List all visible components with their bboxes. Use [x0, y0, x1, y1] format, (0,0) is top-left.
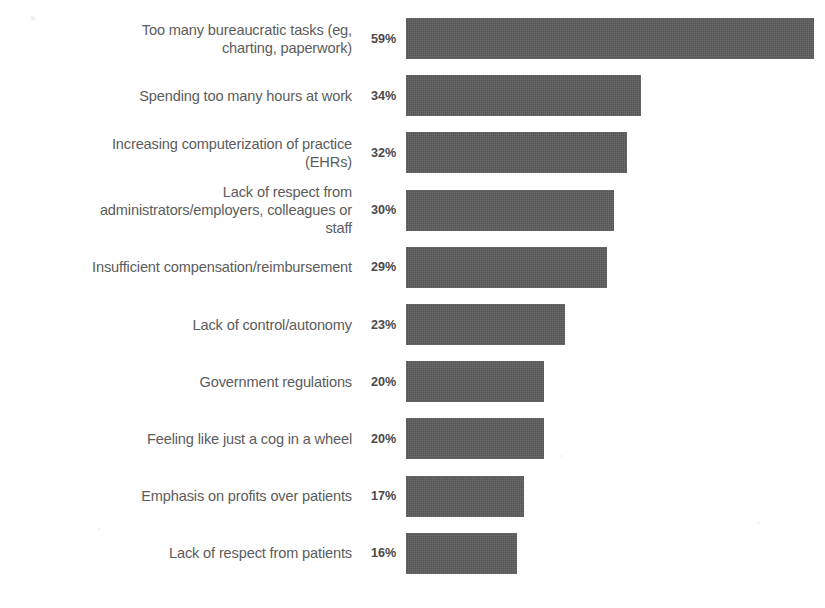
bar-value-label: 59% [352, 32, 406, 46]
bar-row: Insufficient compensation/reimbursement2… [0, 247, 825, 288]
bar-category-label: Emphasis on profits over patients [0, 487, 352, 505]
bar-track [406, 247, 825, 288]
bar-row: Lack of respect from administrators/empl… [0, 190, 825, 231]
bar-value-label: 16% [352, 546, 406, 560]
bar [406, 304, 565, 345]
bar-value-label: 20% [352, 375, 406, 389]
bar-row: Emphasis on profits over patients17% [0, 476, 825, 517]
bar-row: Spending too many hours at work34% [0, 75, 825, 116]
bar [406, 75, 641, 116]
bar-track [406, 75, 825, 116]
bar-category-label: Feeling like just a cog in a wheel [0, 430, 352, 448]
bar-chart: Too many bureaucratic tasks (eg, chartin… [0, 0, 825, 608]
bar-track [406, 361, 825, 402]
bar-track [406, 190, 825, 231]
bar-row: Too many bureaucratic tasks (eg, chartin… [0, 18, 825, 59]
bar-track [406, 533, 825, 574]
bar-row: Lack of control/autonomy23% [0, 304, 825, 345]
bar [406, 533, 517, 574]
bar-track [406, 476, 825, 517]
bar-category-label: Insufficient compensation/reimbursement [0, 258, 352, 276]
bar-category-label: Too many bureaucratic tasks (eg, chartin… [0, 21, 352, 57]
bar-row: Feeling like just a cog in a wheel20% [0, 418, 825, 459]
bar [406, 132, 627, 173]
bar-row: Government regulations20% [0, 361, 825, 402]
bar-value-label: 20% [352, 432, 406, 446]
bar-row: Increasing computerization of practice (… [0, 132, 825, 173]
bar [406, 361, 544, 402]
bar-category-label: Lack of respect from patients [0, 544, 352, 562]
bar-row: Lack of respect from patients16% [0, 533, 825, 574]
bar-track [406, 418, 825, 459]
bar-category-label: Government regulations [0, 373, 352, 391]
bar [406, 247, 607, 288]
bar-value-label: 30% [352, 203, 406, 217]
bar-category-label: Lack of control/autonomy [0, 316, 352, 334]
bar [406, 18, 814, 59]
bar-value-label: 34% [352, 89, 406, 103]
bar-category-label: Spending too many hours at work [0, 87, 352, 105]
bar-value-label: 32% [352, 146, 406, 160]
bar [406, 190, 614, 231]
bar-track [406, 132, 825, 173]
bar-track [406, 18, 825, 59]
bar-value-label: 17% [352, 489, 406, 503]
bar [406, 418, 544, 459]
bar-track [406, 304, 825, 345]
bar-value-label: 23% [352, 318, 406, 332]
bar [406, 476, 524, 517]
bar-value-label: 29% [352, 260, 406, 274]
bar-rows-container: Too many bureaucratic tasks (eg, chartin… [0, 0, 825, 608]
bar-category-label: Lack of respect from administrators/empl… [0, 183, 352, 237]
bar-category-label: Increasing computerization of practice (… [0, 135, 352, 171]
